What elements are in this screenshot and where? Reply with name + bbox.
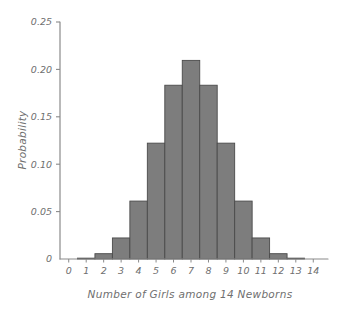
x-tick-label: 2 bbox=[101, 265, 107, 276]
x-tick-label: 12 bbox=[272, 265, 284, 276]
y-tick-label: 0.10 bbox=[31, 159, 52, 170]
histogram-bar bbox=[130, 201, 147, 259]
histogram-bar bbox=[217, 143, 234, 259]
histogram-bar bbox=[182, 60, 199, 259]
histogram-bar bbox=[112, 238, 129, 259]
x-axis-title: Number of Girls among 14 Newborns bbox=[88, 288, 293, 300]
x-tick-label: 4 bbox=[136, 265, 142, 276]
histogram-bar bbox=[147, 143, 164, 259]
x-tick-label: 3 bbox=[118, 265, 124, 276]
x-tick-label: 9 bbox=[223, 265, 229, 276]
histogram-bar bbox=[270, 254, 287, 259]
x-tick-label: 7 bbox=[188, 265, 194, 276]
x-tick-label: 1 bbox=[83, 265, 89, 276]
histogram-canvas: 0.250.200.150.100.050 012345678910111213… bbox=[0, 0, 340, 311]
x-tick-label: 5 bbox=[153, 265, 159, 276]
histogram-bar bbox=[252, 238, 269, 259]
y-tick-label: 0.15 bbox=[31, 111, 52, 122]
histogram-figure: 0.250.200.150.100.050 012345678910111213… bbox=[0, 0, 340, 311]
histogram-bar bbox=[200, 85, 217, 259]
histogram-bar bbox=[165, 85, 182, 259]
x-tick-label: 0 bbox=[66, 265, 72, 276]
histogram-bar bbox=[95, 254, 112, 259]
x-tick-label: 6 bbox=[171, 265, 177, 276]
y-tick-label: 0.05 bbox=[31, 206, 52, 217]
y-tick-label: 0.25 bbox=[31, 16, 52, 27]
y-tick-label: 0 bbox=[46, 253, 52, 264]
x-tick-label: 8 bbox=[205, 265, 211, 276]
histogram-bar bbox=[235, 201, 252, 259]
x-tick-label: 11 bbox=[255, 265, 267, 276]
x-tick-label: 10 bbox=[237, 265, 249, 276]
y-tick-label: 0.20 bbox=[31, 64, 52, 75]
x-tick-label: 14 bbox=[307, 265, 319, 276]
x-tick-label: 13 bbox=[290, 265, 302, 276]
y-axis-title: Probability bbox=[16, 110, 28, 170]
